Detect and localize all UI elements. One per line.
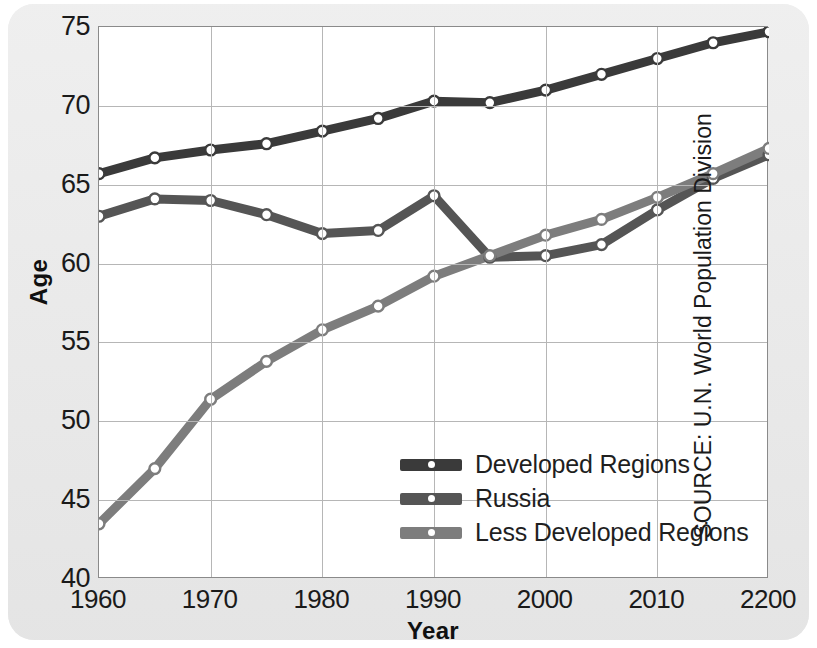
gridline-horizontal [99, 106, 767, 107]
legend-swatch-icon [400, 493, 462, 505]
gridline-vertical [322, 27, 323, 577]
data-point-marker [708, 37, 719, 48]
legend-marker-icon [426, 493, 437, 504]
data-point-marker [261, 209, 272, 220]
data-point-marker [764, 27, 769, 37]
y-axis-tick-label: 65 [32, 170, 90, 197]
gridline-horizontal [99, 421, 767, 422]
data-point-marker [596, 69, 607, 80]
legend-swatch-icon [400, 459, 462, 471]
data-point-marker [261, 138, 272, 149]
data-point-marker [373, 301, 384, 312]
legend-item-label: Russia [475, 486, 550, 511]
x-axis-tick-label: 2200 [723, 586, 813, 612]
gridline-horizontal [99, 185, 767, 186]
gridline-horizontal [99, 342, 767, 343]
data-point-marker [149, 153, 160, 164]
data-point-marker [99, 168, 104, 179]
data-point-marker [373, 225, 384, 236]
y-axis-tick-label: 50 [32, 407, 90, 434]
chart-figure: 7570656055504540 Age 1960197019801990200… [0, 0, 817, 648]
x-axis-tick-label: 1970 [165, 586, 255, 612]
legend-item-label: Developed Regions [475, 452, 690, 477]
y-axis-tick-label: 55 [32, 328, 90, 355]
gridline-horizontal [99, 264, 767, 265]
data-point-marker [149, 194, 160, 205]
legend-swatch-icon [400, 527, 462, 539]
legend-marker-icon [426, 459, 437, 470]
x-axis-tick-labels: 1960197019801990200020102200 [98, 586, 768, 620]
data-point-marker [261, 356, 272, 367]
y-axis-title: Age [25, 237, 53, 327]
data-point-marker [99, 518, 104, 529]
data-point-marker [373, 113, 384, 124]
x-axis-tick-label: 1960 [53, 586, 143, 612]
data-point-marker [596, 214, 607, 225]
x-axis-tick-label: 2010 [611, 586, 701, 612]
y-axis-tick-label: 45 [32, 486, 90, 513]
data-point-marker [596, 239, 607, 250]
x-axis-tick-label: 1980 [276, 586, 366, 612]
y-axis-tick-label: 70 [32, 91, 90, 118]
data-point-marker [484, 250, 495, 261]
x-axis-tick-label: 2000 [500, 586, 590, 612]
data-point-marker [149, 463, 160, 474]
source-note: SOURCE: U.N. World Population Division [690, 119, 717, 539]
x-axis-title: Year [98, 617, 768, 645]
data-point-marker [99, 211, 104, 222]
data-point-marker [764, 143, 769, 154]
y-axis-tick-label: 75 [32, 13, 90, 40]
legend-marker-icon [426, 527, 437, 538]
x-axis-tick-label: 1990 [388, 586, 478, 612]
gridline-vertical [211, 27, 212, 577]
